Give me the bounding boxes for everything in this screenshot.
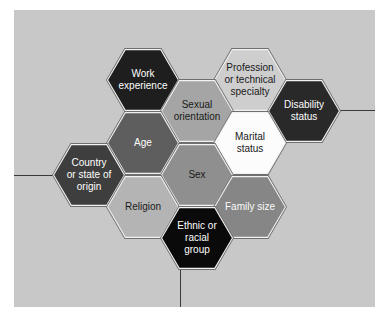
connector-line-left [14, 175, 53, 176]
connector-line-right [340, 110, 375, 111]
hexagon-ethnic-or-racial-group: Ethnic or racial group [160, 206, 234, 270]
connector-line-bottom [180, 268, 181, 307]
hexagon-label-ethnic-or-racial-group: Ethnic or racial group [160, 206, 234, 270]
diagram-panel: Work experience Profession or technical … [14, 10, 375, 307]
